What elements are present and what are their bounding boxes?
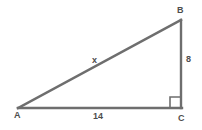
vertex-label-a: A xyxy=(14,111,21,120)
side-length-label-base: 14 xyxy=(93,112,103,121)
side-length-label-vertical: 8 xyxy=(186,55,191,64)
right-angle-marker-icon xyxy=(170,97,180,107)
vertex-label-c: C xyxy=(178,114,185,123)
triangle-diagram: A B C x 8 14 xyxy=(0,0,202,130)
side-ab-hypotenuse-line xyxy=(18,20,181,108)
vertex-label-b: B xyxy=(177,6,184,15)
side-length-label-hypotenuse: x xyxy=(92,56,97,65)
